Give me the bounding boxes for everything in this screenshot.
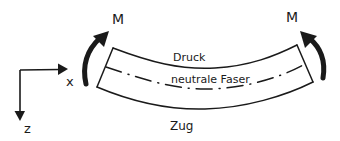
moment-left-label: M <box>112 11 124 27</box>
coordinate-axes <box>15 64 69 122</box>
z-axis-label: z <box>24 121 31 136</box>
tension-label: Zug <box>170 119 193 133</box>
z-axis-arrowhead-icon <box>15 111 26 121</box>
x-axis-label: x <box>66 74 74 89</box>
moment-right-arrow-icon <box>300 31 324 78</box>
beam-right-end <box>297 45 313 82</box>
neutral-axis-label: neutrale Faser <box>171 73 250 86</box>
moment-left-arrow-icon <box>85 31 109 84</box>
x-axis-line <box>20 70 60 71</box>
beam-left-end <box>97 48 113 87</box>
moment-right-label: M <box>286 9 298 25</box>
beam-bending-diagram: x z Druck neutrale Faser Zug M M <box>0 0 340 141</box>
beam-bottom-edge <box>97 82 313 109</box>
compression-label: Druck <box>173 51 206 64</box>
